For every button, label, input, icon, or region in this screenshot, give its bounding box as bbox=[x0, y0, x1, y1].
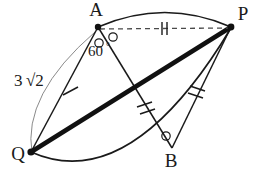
vertex-label-P: P bbox=[238, 3, 249, 24]
vertex-dot-P bbox=[228, 24, 235, 31]
diagram-svg: A P Q B 60 ° 3 √2 bbox=[0, 0, 262, 188]
angle-marker-A-right-icon bbox=[109, 33, 117, 41]
tick-AB-2 bbox=[140, 109, 155, 114]
vertex-label-Q: Q bbox=[11, 143, 25, 164]
tick-PB-2 bbox=[188, 93, 203, 98]
arc-top-A-to-P bbox=[98, 13, 231, 28]
geometry-diagram-canvas: A P Q B 60 ° 3 √2 bbox=[0, 0, 262, 188]
vertex-dot-A bbox=[95, 24, 101, 30]
vertex-label-B: B bbox=[165, 150, 178, 171]
side-length-number-label: 3 bbox=[14, 71, 23, 90]
angle-value-label: 60 bbox=[88, 43, 103, 59]
angle-degree-symbol-label: ° bbox=[106, 41, 110, 52]
tick-mark-group bbox=[63, 22, 205, 114]
segment-AP-dashed bbox=[100, 28, 229, 29]
vertex-dot-Q bbox=[27, 148, 34, 155]
tick-PB-1 bbox=[190, 86, 205, 91]
text-label-group: A P Q B 60 ° 3 √2 bbox=[11, 0, 248, 171]
side-length-radical-label: √2 bbox=[26, 71, 44, 90]
arc-group bbox=[31, 13, 231, 162]
vertex-label-A: A bbox=[89, 0, 103, 20]
